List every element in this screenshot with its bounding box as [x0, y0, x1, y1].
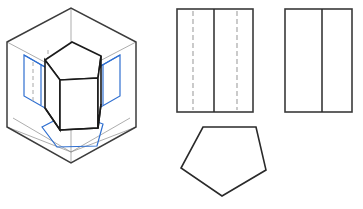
top-view-outline	[181, 127, 266, 196]
box-floor-diag-right	[71, 127, 136, 152]
technical-drawing-svg	[0, 0, 363, 209]
box-floor-diag-left	[7, 127, 71, 152]
prism-front-face	[60, 78, 98, 130]
drawing-canvas	[0, 0, 363, 209]
pentagonal-prism	[45, 42, 101, 130]
side-view-outline	[285, 9, 352, 112]
front-view	[177, 9, 253, 112]
front-view-outline	[177, 9, 253, 112]
isometric-panel	[7, 8, 136, 163]
top-view-pentagon	[181, 127, 266, 196]
side-view	[285, 9, 352, 112]
